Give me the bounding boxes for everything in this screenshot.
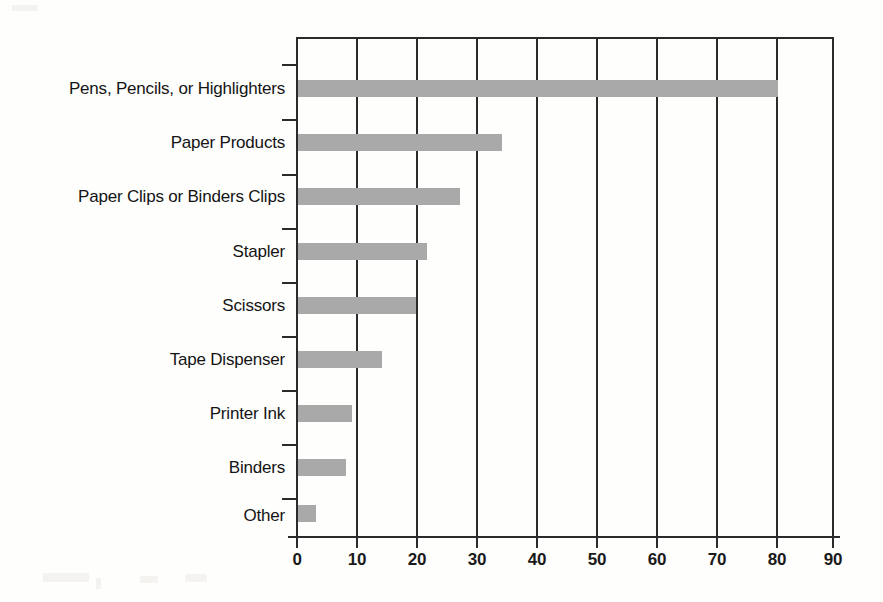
x-axis-label-70: 70 xyxy=(708,550,726,570)
x-axis-label-10: 10 xyxy=(348,550,366,570)
category-label-tape-dispenser: Tape Dispenser xyxy=(170,350,285,370)
y-axis-tick xyxy=(282,390,298,392)
y-axis-tick xyxy=(282,444,298,446)
gridline-20 xyxy=(416,39,418,537)
bar-printer-ink xyxy=(298,405,352,422)
gridline-50 xyxy=(596,39,598,537)
x-axis-label-0: 0 xyxy=(292,550,301,570)
x-axis-tick-10 xyxy=(356,526,358,548)
y-axis-tick xyxy=(282,119,298,121)
category-label-paper-products: Paper Products xyxy=(171,133,285,153)
gridline-10 xyxy=(356,39,358,537)
category-label-paper-clips-or-binders-clips: Paper Clips or Binders Clips xyxy=(78,187,285,207)
x-axis-tick-60 xyxy=(656,526,658,548)
bar-binders xyxy=(298,459,346,476)
x-axis-label-50: 50 xyxy=(588,550,606,570)
bar-chart-figure: Pens, Pencils, or Highlighters Paper Pro… xyxy=(0,0,883,602)
scan-speckle xyxy=(12,5,38,11)
x-axis-label-20: 20 xyxy=(408,550,426,570)
gridline-30 xyxy=(476,39,478,537)
x-axis-tick-80 xyxy=(776,526,778,548)
category-label-pens-pencils-or-highlighters: Pens, Pencils, or Highlighters xyxy=(69,79,285,99)
gridline-40 xyxy=(536,39,538,537)
y-axis-tick xyxy=(282,336,298,338)
x-axis-tick-40 xyxy=(536,526,538,548)
x-axis-line xyxy=(288,536,840,538)
scan-speckle xyxy=(96,578,101,589)
scan-speckle xyxy=(140,576,158,583)
bar-stapler xyxy=(298,243,427,260)
x-axis-label-30: 30 xyxy=(468,550,486,570)
y-axis-tick xyxy=(282,64,298,66)
bar-paper-clips-or-binders-clips xyxy=(298,188,460,205)
scan-speckle xyxy=(43,573,89,582)
category-label-binders: Binders xyxy=(229,458,285,478)
bar-pens-pencils-or-highlighters xyxy=(298,80,778,97)
bar-tape-dispenser xyxy=(298,351,382,368)
category-label-stapler: Stapler xyxy=(233,242,285,262)
y-axis-tick xyxy=(282,282,298,284)
category-label-printer-ink: Printer Ink xyxy=(210,404,285,424)
x-axis-tick-0 xyxy=(296,526,298,548)
gridline-60 xyxy=(656,39,658,537)
scan-speckle xyxy=(185,574,207,582)
plot-area xyxy=(296,37,834,537)
x-axis-label-60: 60 xyxy=(648,550,666,570)
y-axis-tick xyxy=(282,498,298,500)
x-axis-tick-30 xyxy=(476,526,478,548)
gridline-70 xyxy=(716,39,718,537)
category-label-other: Other xyxy=(243,506,285,526)
bar-scissors xyxy=(298,297,416,314)
bar-other xyxy=(298,505,316,522)
x-axis-label-40: 40 xyxy=(528,550,546,570)
y-axis-tick xyxy=(282,174,298,176)
bar-paper-products xyxy=(298,134,502,151)
x-axis-label-90: 90 xyxy=(824,550,842,570)
gridline-80 xyxy=(776,39,778,537)
x-axis-tick-90 xyxy=(832,526,834,548)
x-axis-label-80: 80 xyxy=(768,550,786,570)
x-axis-tick-50 xyxy=(596,526,598,548)
y-axis-tick xyxy=(282,228,298,230)
x-axis-tick-20 xyxy=(416,526,418,548)
x-axis-tick-70 xyxy=(716,526,718,548)
category-label-scissors: Scissors xyxy=(222,296,285,316)
